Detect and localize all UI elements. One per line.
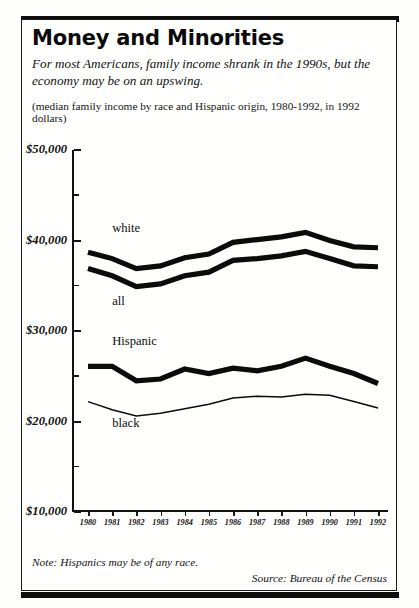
x-axis-tick <box>185 512 187 516</box>
x-axis-tick <box>112 512 114 516</box>
y-axis-minor-tick <box>74 194 79 196</box>
y-axis-tick <box>74 149 81 151</box>
page-title: Money and Minorities <box>32 26 284 50</box>
y-axis-tick <box>74 240 81 242</box>
series-line-hispanic <box>88 358 378 383</box>
plot-area <box>72 150 388 512</box>
y-axis-label: $30,000 <box>26 323 67 338</box>
y-axis-minor-tick <box>74 466 79 468</box>
x-axis-tick <box>161 512 163 516</box>
x-axis-label: 1985 <box>201 518 217 527</box>
x-axis-tick <box>209 512 211 516</box>
x-axis-tick <box>233 512 235 516</box>
y-axis-tick <box>74 421 81 423</box>
x-axis-label: 1987 <box>249 518 265 527</box>
y-axis-label: $50,000 <box>26 142 67 157</box>
x-axis-label: 1980 <box>80 518 96 527</box>
subtitle: For most Americans, family income shrank… <box>32 56 374 89</box>
x-axis-label: 1991 <box>346 518 362 527</box>
y-axis-label: $10,000 <box>26 504 67 519</box>
x-axis-tick <box>306 512 308 516</box>
x-axis-label: 1992 <box>370 518 386 527</box>
x-axis-tick <box>88 512 90 516</box>
series-label-all: all <box>112 294 125 309</box>
x-axis-label: 1989 <box>297 518 313 527</box>
y-axis-tick <box>74 330 81 332</box>
x-axis-tick <box>281 512 283 516</box>
x-axis-label: 1982 <box>128 518 144 527</box>
series-line-black <box>88 394 378 416</box>
bottom-rule <box>21 592 399 598</box>
y-axis-minor-tick <box>74 375 79 377</box>
y-axis-tick <box>74 511 81 513</box>
x-axis-tick <box>354 512 356 516</box>
x-axis-label: 1990 <box>321 518 337 527</box>
series-label-hispanic: Hispanic <box>112 334 157 349</box>
x-axis-label: 1981 <box>104 518 120 527</box>
x-axis-tick <box>330 512 332 516</box>
y-axis-label: $20,000 <box>26 414 67 429</box>
x-axis-label: 1983 <box>152 518 168 527</box>
series-label-white: white <box>112 221 140 236</box>
y-axis-label: $40,000 <box>26 233 67 248</box>
x-axis-label: 1984 <box>176 518 192 527</box>
source-credit: Source: Bureau of the Census <box>252 572 387 584</box>
x-axis-tick <box>257 512 259 516</box>
y-axis-minor-tick <box>74 285 79 287</box>
chart-page: Money and Minorities For most Americans,… <box>0 0 419 608</box>
series-label-black: black <box>112 416 139 431</box>
x-axis-tick <box>136 512 138 516</box>
footnote: Note: Hispanics may be of any race. <box>32 556 198 568</box>
x-axis-label: 1988 <box>273 518 289 527</box>
series-lines <box>72 150 388 512</box>
x-axis-tick <box>378 512 380 516</box>
x-axis-label: 1986 <box>225 518 241 527</box>
chart-caption: (median family income by race and Hispan… <box>32 100 382 124</box>
